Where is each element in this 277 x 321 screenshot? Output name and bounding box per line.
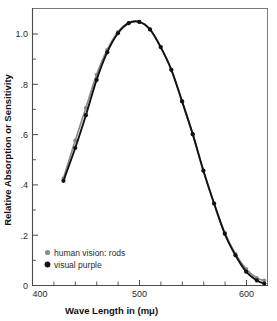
data-point (127, 21, 131, 25)
data-point (244, 270, 248, 274)
data-point (233, 253, 237, 257)
x-axis-title: Wave Length in (mμ) (65, 305, 158, 316)
data-point (94, 78, 98, 82)
x-tick-label-400: 400 (33, 289, 48, 299)
data-point (191, 132, 195, 136)
data-point (73, 146, 77, 150)
data-point (61, 179, 65, 183)
data-point (262, 281, 266, 285)
data-point (105, 50, 109, 54)
data-point (255, 278, 259, 282)
data-point (223, 232, 227, 236)
x-tick-label-600: 600 (239, 289, 254, 299)
legend-marker-visual-purple (45, 262, 51, 268)
data-point (148, 27, 152, 31)
y-tick-label-1: .2 (20, 231, 28, 241)
data-point (201, 169, 205, 173)
y-tick-label-4: .8 (20, 80, 28, 90)
data-point (180, 99, 184, 103)
data-point (116, 31, 120, 35)
y-tick-label-3: .6 (20, 130, 28, 140)
data-point (137, 20, 141, 24)
data-point (212, 201, 216, 205)
figure-chart: 0 .2 .4 .6 .8 1.0 400 500 600 (0, 0, 277, 321)
y-tick-label-0: 0 (23, 281, 28, 291)
legend-label-visual-purple: visual purple (54, 260, 102, 270)
data-point (159, 45, 163, 49)
legend-label-human-vision-rods: human vision: rods (54, 248, 125, 258)
legend-marker-human-vision-rods (45, 250, 50, 255)
y-axis-title: Relative Absorption or Sensitivity (2, 73, 13, 225)
y-tick-label-5: 1.0 (15, 29, 28, 39)
x-tick-label-500: 500 (132, 289, 147, 299)
data-point (169, 68, 173, 72)
y-tick-label-2: .4 (20, 180, 28, 190)
data-point (84, 113, 88, 117)
figure-background (0, 0, 277, 321)
absorption-sensitivity-plot: 0 .2 .4 .6 .8 1.0 400 500 600 (0, 0, 277, 321)
